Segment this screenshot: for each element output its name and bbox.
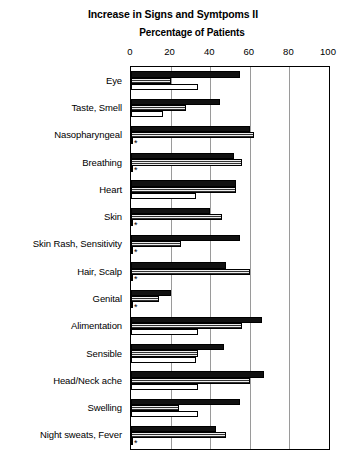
chart-title: Increase in Signs and Symtpoms II	[0, 8, 346, 20]
bar-group: *	[131, 258, 329, 285]
y-axis-category-labels: EyeTaste, SmellNasopharyngealBreathingHe…	[0, 66, 126, 448]
bar-group	[131, 94, 329, 121]
x-axis-tick-80: 80	[283, 46, 294, 57]
bar-night-sweats-fever-series-2	[131, 432, 226, 438]
bar-group	[131, 340, 329, 367]
chart-subtitle: Percentage of Patients	[0, 27, 346, 38]
bar-taste-smell-series-3	[131, 111, 163, 117]
chart-container: Increase in Signs and Symtpoms II Percen…	[0, 0, 346, 460]
significance-asterisk: *	[134, 139, 138, 148]
y-axis-label-eye: Eye	[106, 74, 122, 85]
y-axis-label-sensible: Sensible	[86, 347, 122, 358]
significance-asterisk: *	[134, 166, 138, 175]
y-axis-label-head-neck-ache: Head/Neck ache	[53, 374, 122, 385]
bar-group: *	[131, 231, 329, 258]
bar-swelling-series-3	[131, 411, 198, 417]
y-axis-label-heart: Heart	[99, 183, 122, 194]
x-axis-tick-labels: 020406080100	[0, 46, 346, 60]
bar-heart-series-3	[131, 193, 196, 199]
bar-group	[131, 394, 329, 421]
plot-area: *******	[130, 66, 330, 450]
x-axis-tick-0: 0	[127, 46, 132, 57]
bar-head-neck-ache-series-3	[131, 384, 198, 390]
bar-group: *	[131, 122, 329, 149]
x-axis-tick-20: 20	[164, 46, 175, 57]
y-axis-label-genital: Genital	[93, 292, 122, 303]
significance-asterisk: *	[134, 248, 138, 257]
y-axis-label-skin-rash-sensitivity: Skin Rash, Sensitivity	[33, 238, 122, 249]
y-axis-label-night-sweats-fever: Night sweats, Fever	[40, 429, 122, 440]
bar-group	[131, 313, 329, 340]
bar-group: *	[131, 285, 329, 312]
x-axis-tick-60: 60	[244, 46, 255, 57]
y-axis-label-skin: Skin	[104, 211, 122, 222]
bar-sensible-series-3	[131, 357, 196, 363]
y-axis-label-nasopharyngeal: Nasopharyngeal	[54, 129, 122, 140]
bar-group: *	[131, 203, 329, 230]
bar-group: *	[131, 422, 329, 449]
bar-eye-series-3	[131, 84, 198, 90]
x-axis-tick-100: 100	[320, 46, 336, 57]
bar-group	[131, 67, 329, 94]
significance-asterisk: *	[134, 221, 138, 230]
y-axis-label-swelling: Swelling	[87, 402, 122, 413]
bar-night-sweats-fever-series-3	[131, 438, 133, 444]
bar-group	[131, 367, 329, 394]
significance-asterisk: *	[134, 303, 138, 312]
y-axis-label-hair-scalp: Hair, Scalp	[77, 265, 122, 276]
bar-hair-scalp-series-2	[131, 269, 250, 275]
y-axis-label-taste-smell: Taste, Smell	[71, 101, 122, 112]
bar-breathing-series-3	[131, 166, 133, 172]
significance-asterisk: *	[134, 439, 138, 448]
y-axis-label-breathing: Breathing	[82, 156, 122, 167]
bar-skin-rash-sensitivity-series-2	[131, 241, 181, 247]
bar-nasopharyngeal-series-2	[131, 132, 254, 138]
bar-genital-series-3	[131, 302, 133, 308]
bar-hair-scalp-series-3	[131, 275, 133, 281]
bar-skin-series-2	[131, 214, 222, 220]
y-axis-label-alimentation: Alimentation	[71, 320, 122, 331]
bar-skin-series-3	[131, 220, 133, 226]
bar-skin-rash-sensitivity-series-3	[131, 247, 133, 253]
bar-group	[131, 176, 329, 203]
bar-nasopharyngeal-series-3	[131, 138, 133, 144]
bar-breathing-series-2	[131, 159, 242, 165]
bar-group: *	[131, 149, 329, 176]
bar-alimentation-series-3	[131, 329, 198, 335]
bar-rows: *******	[131, 67, 329, 449]
significance-asterisk: *	[134, 275, 138, 284]
x-axis-tick-40: 40	[204, 46, 215, 57]
